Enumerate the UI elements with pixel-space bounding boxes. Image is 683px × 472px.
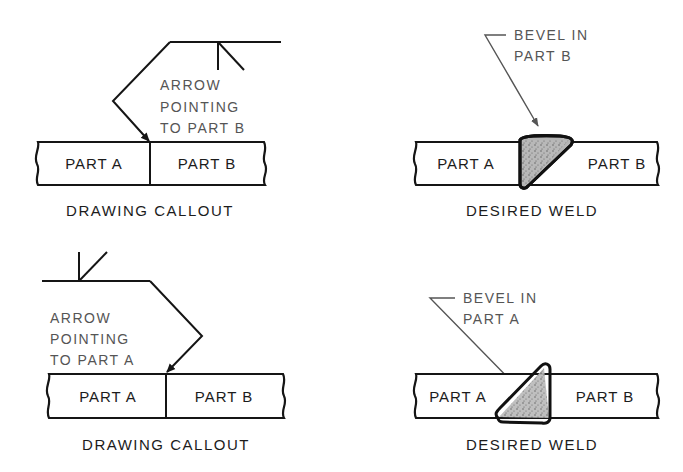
panel-weld-part-a: BEVEL IN PART A PART A PART B DESIRED WE… [414,290,659,453]
part-a-label: PART A [79,388,137,405]
note-line-2: POINTING [50,331,130,347]
caption: DESIRED WELD [466,436,598,453]
panel-weld-part-b: BEVEL IN PART B PART A PART B DESIRED WE… [414,27,659,219]
panel-callout-part-a: ARROW POINTING TO PART A PART A PART B D… [42,252,285,453]
caption: DRAWING CALLOUT [66,202,234,219]
part-a-label: PART A [429,388,487,405]
part-b-label: PART B [588,155,647,172]
caption: DRAWING CALLOUT [82,436,250,453]
weld-symbol-diagram: ARROW POINTING TO PART B PART A PART B D… [0,0,683,472]
note-line-3: TO PART B [160,120,246,136]
note-line-1: ARROW [50,310,111,326]
bevel-weld-symbol-icon [79,252,107,281]
part-b-label: PART B [576,388,635,405]
part-a-label: PART A [437,155,495,172]
panel-callout-part-b: ARROW POINTING TO PART B PART A PART B D… [36,42,281,219]
bevel-weld-symbol-icon [218,42,244,70]
note-line-2: POINTING [160,99,240,115]
caption: DESIRED WELD [466,202,598,219]
leader-arrow [150,281,202,372]
part-b-label: PART B [178,155,237,172]
note-line-2: PART B [514,48,572,64]
note-line-1: BEVEL IN [514,27,589,43]
note-line-2: PART A [463,311,520,327]
note-line-1: BEVEL IN [463,290,538,306]
part-b-label: PART B [195,388,254,405]
note-line-3: TO PART A [50,352,135,368]
note-line-1: ARROW [160,77,221,93]
part-a-label: PART A [65,155,123,172]
